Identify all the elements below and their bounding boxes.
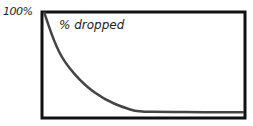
chart-plot <box>0 0 253 126</box>
dropped-curve <box>44 12 244 112</box>
plot-frame <box>42 12 245 118</box>
